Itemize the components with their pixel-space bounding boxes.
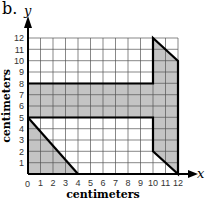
x-tick: 12 [173, 178, 183, 188]
y-tick: 8 [19, 79, 24, 89]
y-tick-labels: 1 2 3 4 5 6 7 8 9 10 11 12 [14, 33, 24, 168]
x-axis-title: centimeters [66, 188, 140, 200]
x-tick: 9 [138, 178, 143, 188]
y-tick: 11 [15, 45, 24, 55]
x-tick: 2 [50, 178, 55, 188]
x-tick: 1 [38, 178, 43, 188]
y-tick: 4 [19, 124, 24, 134]
y-tick: 6 [19, 101, 24, 111]
x-axis-symbol: x [197, 166, 205, 181]
x-tick-labels: 1 2 3 4 5 6 7 8 9 10 11 12 [38, 178, 183, 188]
y-tick: 7 [19, 90, 24, 100]
y-tick: 12 [14, 33, 24, 43]
figure-label: b. [2, 0, 17, 18]
x-tick: 11 [161, 178, 170, 188]
x-tick: 7 [113, 178, 118, 188]
y-tick: 10 [14, 56, 24, 66]
x-tick: 10 [148, 178, 158, 188]
x-tick: 6 [100, 178, 105, 188]
x-tick: 4 [75, 178, 80, 188]
x-tick: 3 [63, 178, 68, 188]
y-tick: 2 [19, 147, 24, 157]
coordinate-grid-figure: b. y x 0 1 2 3 4 5 6 7 8 9 10 11 12 1 2 … [0, 0, 206, 200]
y-tick: 1 [19, 158, 24, 168]
y-tick: 9 [19, 67, 24, 77]
x-tick: 8 [125, 178, 130, 188]
origin-label: 0 [25, 179, 30, 189]
y-axis-title: centimeters [0, 69, 13, 143]
x-tick: 5 [88, 178, 93, 188]
y-tick: 5 [19, 113, 24, 123]
y-tick: 3 [19, 135, 24, 145]
y-axis-symbol: y [23, 3, 32, 18]
